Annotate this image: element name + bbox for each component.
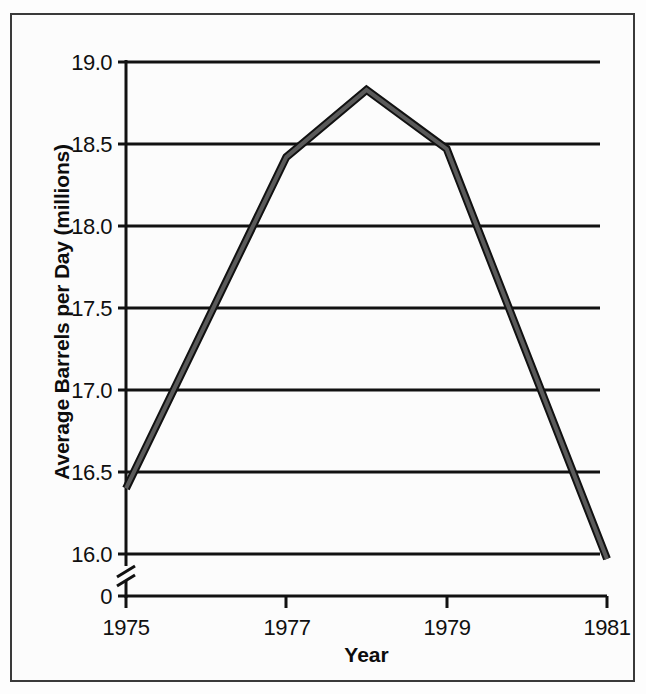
chart-figure: Average Barrels per Day (millions) 19.0 … — [0, 0, 646, 694]
gridlines — [126, 62, 600, 554]
plot-area — [0, 0, 646, 694]
data-line-outline — [126, 90, 607, 559]
x-tick-marks — [126, 596, 607, 608]
data-line-series-1 — [126, 90, 607, 559]
